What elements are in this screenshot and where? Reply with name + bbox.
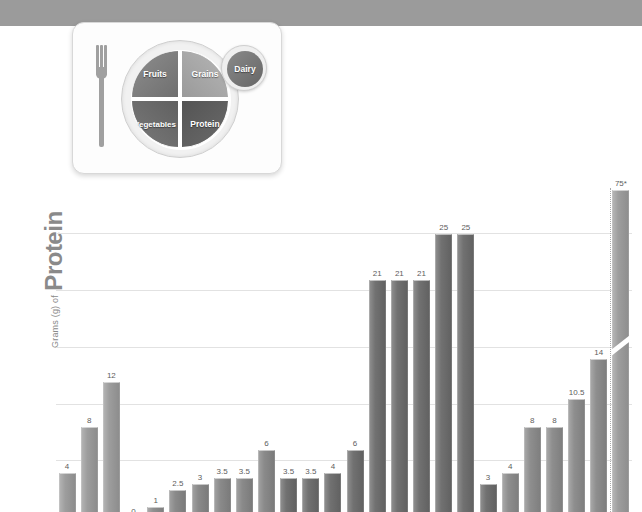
bar-value-label: 6 [252, 439, 281, 448]
bar-value-label: 75* [606, 179, 635, 188]
bar [502, 473, 519, 512]
bar [612, 190, 629, 512]
plate-segment-vegetables-label: Vegetables [134, 120, 176, 129]
bar [413, 280, 430, 512]
bar [258, 450, 275, 512]
bar [280, 478, 297, 512]
bar-value-label: 4 [318, 462, 347, 471]
plate-segment-fruits-label: Fruits [143, 69, 167, 79]
bar-value-label: 8 [540, 416, 569, 425]
bar [457, 234, 474, 512]
bar-series: 4812012.533.53.563.53.546212121252534881… [56, 188, 632, 512]
bar [369, 280, 386, 512]
bar [435, 234, 452, 512]
bar-value-label: 12 [97, 371, 126, 380]
bar-value-label: 4 [496, 462, 525, 471]
dairy-cup-outer: Dairy [221, 45, 267, 91]
bar [169, 490, 186, 512]
bar [59, 473, 76, 512]
bar [236, 478, 253, 512]
plate-segment-grains-label: Grains [192, 69, 219, 79]
plate-inner: Fruits Grains Vegetables Protein [131, 50, 231, 150]
bar [302, 478, 319, 512]
plate-segment-dairy-label: Dairy [234, 64, 255, 74]
plot-region: 4812012.533.53.563.53.546212121252534881… [56, 188, 632, 512]
bar [81, 427, 98, 512]
bar-value-label: 21 [407, 269, 436, 278]
myplate-graphic-card: Fruits Grains Vegetables Protein Dairy [72, 22, 282, 174]
chart-area: 4812012.533.53.563.53.546212121252534881… [0, 180, 642, 512]
bar-value-label: 6 [341, 439, 370, 448]
plate-outer-rim: Fruits Grains Vegetables Protein [121, 40, 239, 158]
bar [524, 427, 541, 512]
plate-segment-protein: Protein [181, 100, 229, 148]
bar [147, 507, 164, 512]
bar-value-label: 4 [53, 462, 82, 471]
bar [546, 427, 563, 512]
bar [192, 484, 209, 512]
bar [324, 473, 341, 512]
bar [480, 484, 497, 512]
bar [103, 382, 120, 512]
bar [347, 450, 364, 512]
bar [568, 399, 585, 512]
dairy-cup: Dairy [227, 51, 263, 87]
bar [214, 478, 231, 512]
bar-value-label: 3.5 [230, 467, 259, 476]
plate-segment-protein-label: Protein [190, 119, 219, 129]
axis-break-separator [610, 188, 611, 512]
fork-icon [95, 45, 108, 147]
bar-value-label: 25 [451, 223, 480, 232]
plate-segment-fruits: Fruits [131, 50, 179, 98]
bar-value-label: 8 [75, 416, 104, 425]
bar-value-label: 3 [474, 473, 503, 482]
bar-value-label: 0 [119, 507, 148, 512]
bar-value-label: 10.5 [562, 388, 591, 397]
plate-segment-vegetables: Vegetables [131, 100, 179, 148]
bar [590, 359, 607, 512]
bar [391, 280, 408, 512]
bar-value-label: 1 [141, 496, 170, 505]
chart-page: Fruits Grains Vegetables Protein Dairy G… [0, 0, 642, 512]
